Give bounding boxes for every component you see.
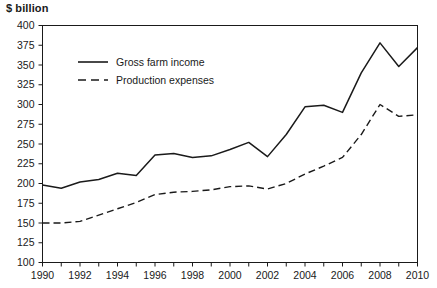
y-tick-label: 300	[17, 98, 35, 110]
y-tick-label: 125	[17, 236, 35, 248]
x-tick-label: 2008	[368, 269, 392, 281]
plot-frame	[43, 26, 418, 263]
line-chart-svg: 100125150175200225250275300325350375400 …	[0, 0, 437, 288]
x-tick-label: 1998	[181, 269, 205, 281]
y-tick-label: 200	[17, 177, 35, 189]
y-tick-label: 325	[17, 78, 35, 90]
x-tick-label: 2002	[256, 269, 280, 281]
y-tick-label: 175	[17, 197, 35, 209]
chart-figure: $ billion 100125150175200225250275300325…	[0, 0, 437, 288]
x-tick-label: 1994	[106, 269, 130, 281]
y-tick-label: 250	[17, 138, 35, 150]
x-tick-label: 2010	[406, 269, 430, 281]
legend-label-2: Production expenses	[116, 74, 214, 86]
y-axis-tick-labels: 100125150175200225250275300325350375400	[17, 19, 35, 268]
y-tick-label: 375	[17, 39, 35, 51]
y-tick-label: 225	[17, 157, 35, 169]
x-tick-label: 1992	[68, 269, 92, 281]
legend-label-1: Gross farm income	[116, 56, 205, 68]
x-tick-label: 2004	[293, 269, 317, 281]
y-tick-label: 275	[17, 118, 35, 130]
y-tick-label: 100	[17, 256, 35, 268]
x-axis-ticks	[43, 263, 418, 267]
x-tick-label: 2000	[218, 269, 242, 281]
x-axis-tick-labels: 1990199219941996199820002002200420062008…	[31, 269, 430, 281]
x-tick-label: 1996	[143, 269, 167, 281]
y-axis-ticks	[39, 26, 43, 263]
y-tick-label: 150	[17, 217, 35, 229]
y-tick-label: 400	[17, 19, 35, 31]
x-tick-label: 2006	[331, 269, 355, 281]
x-tick-label: 1990	[31, 269, 55, 281]
y-tick-label: 350	[17, 59, 35, 71]
